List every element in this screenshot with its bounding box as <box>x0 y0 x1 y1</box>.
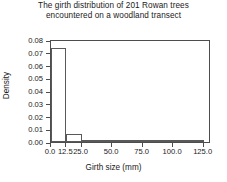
y-axis-tick: 0.06 <box>0 62 50 72</box>
chart-title: The girth distribution of 201 Rowan tree… <box>0 1 227 21</box>
histogram-bar <box>51 48 66 142</box>
y-axis-tick-label: 0.05 <box>28 74 43 84</box>
y-axis-tick-label: 0.02 <box>28 113 43 123</box>
y-axis-tick: 0.08 <box>0 36 50 46</box>
plot-area <box>50 40 210 143</box>
y-axis-tick-label: 0.01 <box>28 125 43 135</box>
y-axis-tick-label: 0.04 <box>28 87 43 97</box>
x-axis-title-text: Girth size (mm) <box>86 163 142 172</box>
x-axis-tick-label: 125.0 <box>183 147 223 157</box>
y-axis-tick: 0.03 <box>0 100 50 110</box>
y-axis-tick-label: 0.06 <box>28 62 43 72</box>
bars-layer <box>51 41 209 142</box>
histogram-bar <box>82 140 113 142</box>
histogram-bar <box>66 134 81 142</box>
y-axis-tick: 0.04 <box>0 87 50 97</box>
y-axis-tick: 0.01 <box>0 125 50 135</box>
chart-title-line-2: encountered on a woodland transect <box>0 11 227 21</box>
y-axis-tick: 0.05 <box>0 74 50 84</box>
chart-title-line-1: The girth distribution of 201 Rowan tree… <box>0 1 227 11</box>
y-axis-tick: 0.02 <box>0 113 50 123</box>
histogram-chart: The girth distribution of 201 Rowan tree… <box>0 0 227 182</box>
y-axis-tick: 0.07 <box>0 49 50 59</box>
y-axis-tick-label: 0.08 <box>28 36 43 46</box>
histogram-bar <box>112 140 204 142</box>
x-axis-title: Girth size (mm) <box>0 163 227 172</box>
y-axis-tick-label: 0.03 <box>28 100 43 110</box>
y-axis-tick-label: 0.07 <box>28 49 43 59</box>
